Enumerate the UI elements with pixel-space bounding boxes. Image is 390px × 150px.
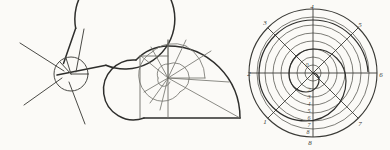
polar-ray-label-7: 7 <box>358 120 362 128</box>
polar-ray-label-2: 2 <box>247 70 251 78</box>
polar-scale-label-6: 6 <box>308 115 311 121</box>
polar-center-label-1: 1 <box>318 75 321 81</box>
figure-plate: 4 5 6 7 8 1 2 3 0 1 2 3 4 5 6 7 8 <box>0 0 390 150</box>
polar-scale-label-5: 5 <box>308 108 311 114</box>
polar-scale-label-8: 8 <box>307 129 310 135</box>
polar-ray-label-1: 1 <box>263 118 267 126</box>
polar-ray-label-4: 4 <box>310 3 314 11</box>
polar-scale-label-4: 4 <box>308 101 311 107</box>
polar-ray-label-6: 6 <box>379 71 383 79</box>
polar-ray-label-3: 3 <box>262 19 267 27</box>
polar-center-label-0: 0 <box>306 62 309 68</box>
polar-ray-label-8: 8 <box>308 139 312 147</box>
polar-ray-label-5: 5 <box>358 21 362 29</box>
polar-scale-label-3: 3 <box>307 94 311 100</box>
polar-scale-label-2: 2 <box>308 87 311 93</box>
figure-canvas: 4 5 6 7 8 1 2 3 0 1 2 3 4 5 6 7 8 <box>0 0 390 150</box>
